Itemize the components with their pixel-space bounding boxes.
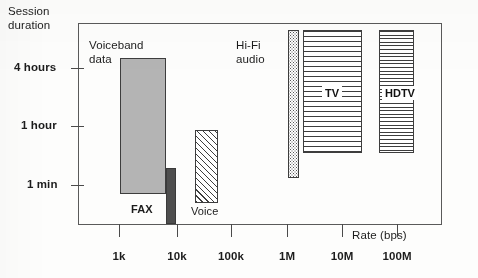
y-tick-1-hour	[71, 126, 84, 127]
y-tick-4-hours	[71, 68, 84, 69]
hdtv-label: HDTV	[382, 86, 418, 100]
voiceband-data-label-line1: Voiceband	[89, 39, 144, 53]
fax-bar	[166, 168, 176, 224]
x-tick-label-100M: 100M	[377, 250, 417, 264]
figure-canvas: Session duration 4 hours 1 hour 1 min 1k…	[0, 0, 478, 278]
tv-label: TV	[322, 86, 342, 100]
x-tick-10M	[342, 224, 343, 237]
voiceband-data-label-line2: data	[89, 53, 112, 67]
x-tick-label-10k: 10k	[157, 250, 197, 264]
y-tick-label-1-hour: 1 hour	[21, 119, 57, 133]
x-tick-label-1M: 1M	[267, 250, 307, 264]
x-tick-label-10M: 10M	[322, 250, 362, 264]
x-tick-label-100k: 100k	[211, 250, 251, 264]
y-axis-title-line2: duration	[8, 18, 50, 32]
x-axis-title: Rate (bps)	[352, 228, 407, 242]
voiceband-data-bar	[120, 58, 166, 194]
voice-bar	[195, 130, 218, 203]
x-tick-1k	[119, 224, 120, 237]
fax-label: FAX	[131, 203, 153, 217]
y-axis-title-line1: Session	[8, 4, 50, 18]
plot-top-border	[78, 23, 442, 24]
x-tick-label-1k: 1k	[99, 250, 139, 264]
y-axis-line	[78, 23, 79, 225]
y-tick-label-4-hours: 4 hours	[14, 61, 56, 75]
voice-label: Voice	[191, 205, 218, 219]
y-tick-label-1-min: 1 min	[27, 178, 58, 192]
x-tick-10k	[177, 224, 178, 237]
y-tick-1-min	[71, 185, 84, 186]
hifi-audio-bar	[288, 30, 299, 178]
x-tick-100k	[231, 224, 232, 237]
x-axis-line	[78, 224, 442, 225]
x-tick-1M	[287, 224, 288, 237]
plot-right-border	[441, 23, 442, 225]
hifi-audio-label-line2: audio	[236, 53, 265, 67]
hifi-audio-label-line1: Hi-Fi	[236, 39, 261, 53]
